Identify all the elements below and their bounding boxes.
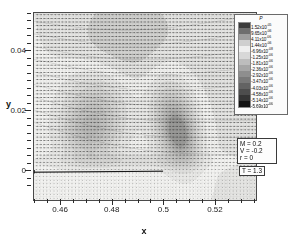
y-tick-minor xyxy=(27,28,31,29)
y-tick-label: 0.04 xyxy=(0,46,26,55)
y-tick-minor xyxy=(27,140,31,141)
y-tick-minor xyxy=(27,148,31,149)
y-axis-title: y xyxy=(6,99,11,109)
x-tick-minor xyxy=(34,199,35,203)
x-tick-minor xyxy=(228,199,229,203)
y-tick-minor xyxy=(27,88,31,89)
parameter-line: r = 0 xyxy=(240,154,274,161)
parameter-line: M = 0.2 xyxy=(240,140,274,147)
x-tick-label: 0.46 xyxy=(52,205,68,214)
plot-area xyxy=(33,12,257,201)
x-tick-minor xyxy=(254,199,255,203)
x-tick-minor xyxy=(73,199,74,203)
x-tick-minor xyxy=(150,199,151,203)
figure-root: 0.460.480.50.52 x 0.040.020 y P 1.52x10-… xyxy=(0,0,294,249)
y-tick-minor xyxy=(27,133,31,134)
y-tick-minor xyxy=(27,80,31,81)
x-tick-label: 0.5 xyxy=(158,205,169,214)
x-tick-minor xyxy=(176,199,177,203)
y-tick-minor xyxy=(27,65,31,66)
y-tick-minor xyxy=(27,163,31,164)
legend-value-label: -5.69x10-06 xyxy=(251,101,273,110)
y-tick-minor xyxy=(27,118,31,119)
x-tick-minor xyxy=(47,199,48,203)
flow-field-canvas xyxy=(34,13,256,200)
y-tick-minor xyxy=(27,20,31,21)
y-tick-minor xyxy=(27,178,31,179)
y-tick-label: 0.02 xyxy=(0,106,26,115)
x-tick-minor xyxy=(241,199,242,203)
legend-color-swatch xyxy=(238,101,251,108)
y-tick-minor xyxy=(27,103,31,104)
pressure-colorbar-legend: P 1.52x10-059.65x10-064.11x10-061.44x10-… xyxy=(234,14,288,115)
x-tick-minor xyxy=(86,199,87,203)
y-tick-minor xyxy=(27,125,31,126)
time-label: T = 1.3 xyxy=(242,167,262,175)
x-tick-label: 0.48 xyxy=(104,205,120,214)
time-annotation-box: T = 1.3 xyxy=(239,166,265,176)
x-axis-title: x xyxy=(141,226,146,236)
x-tick-minor xyxy=(99,199,100,203)
x-tick-minor xyxy=(202,199,203,203)
legend-row: -5.69x10-06 xyxy=(238,101,286,107)
y-tick-minor xyxy=(27,58,31,59)
y-tick-label: 0 xyxy=(0,166,26,175)
y-tick-minor xyxy=(27,95,31,96)
y-tick-minor xyxy=(27,35,31,36)
x-tick-minor xyxy=(125,199,126,203)
y-tick-minor xyxy=(27,73,31,74)
y-tick-minor xyxy=(27,43,31,44)
parameter-line: V = -0.2 xyxy=(240,147,274,154)
x-tick-label: 0.52 xyxy=(207,205,223,214)
y-tick-minor xyxy=(27,13,31,14)
x-tick-minor xyxy=(189,199,190,203)
x-tick-minor xyxy=(138,199,139,203)
legend-entries: 1.52x10-059.65x10-064.11x10-061.44x10-06… xyxy=(238,22,286,107)
legend-title: P xyxy=(235,16,287,21)
y-tick-minor xyxy=(27,155,31,156)
y-tick-minor xyxy=(27,185,31,186)
parameter-annotation-box: M = 0.2V = -0.2r = 0 xyxy=(237,138,277,164)
